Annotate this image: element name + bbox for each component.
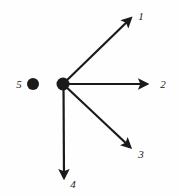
vector-diagram-figure: 1 2 3 4 5 [0,0,179,196]
vector-label-3: 3 [138,149,144,160]
isolated-point-5 [27,78,39,90]
vector-arrow-4 [64,84,65,178]
vector-label-4: 4 [70,179,76,190]
point-label-5: 5 [16,79,22,90]
vector-arrow-3 [63,84,130,147]
vector-canvas [0,0,179,196]
vector-label-2: 2 [160,79,166,90]
vector-arrow-1 [63,19,131,85]
origin-node [57,78,70,91]
vector-label-1: 1 [138,11,144,22]
